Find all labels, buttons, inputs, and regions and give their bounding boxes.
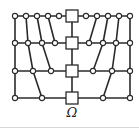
circle-node <box>127 13 132 18</box>
vertical-edge <box>37 16 42 43</box>
circle-node <box>12 40 17 45</box>
circle-node <box>109 68 114 73</box>
circle-node <box>39 95 44 100</box>
vertical-edge <box>28 43 33 71</box>
circle-node <box>105 13 110 18</box>
circle-node <box>30 68 35 73</box>
divider <box>0 127 139 128</box>
circle-node <box>100 95 105 100</box>
circle-node <box>12 95 17 100</box>
circle-node <box>90 68 95 73</box>
square-node <box>66 65 78 77</box>
vertical-edge <box>33 71 42 98</box>
circle-node <box>52 40 57 45</box>
circle-node <box>127 95 132 100</box>
circle-node <box>23 13 28 18</box>
circle-node <box>12 13 17 18</box>
circle-node <box>39 40 44 45</box>
circle-node <box>12 68 17 73</box>
vertical-edge <box>48 16 55 43</box>
vertical-edge <box>103 71 112 98</box>
circle-node <box>86 40 91 45</box>
circle-node <box>100 40 105 45</box>
circle-node <box>83 13 88 18</box>
vertical-edge <box>103 16 108 43</box>
vertical-edge <box>116 16 119 43</box>
circle-node <box>45 13 50 18</box>
circle-node <box>127 40 132 45</box>
vertical-edge <box>93 43 103 71</box>
square-node <box>66 92 78 104</box>
circle-node <box>48 68 53 73</box>
circle-node <box>34 13 39 18</box>
vertical-edge <box>112 43 116 71</box>
vertical-edge <box>26 16 28 43</box>
circle-node <box>113 40 118 45</box>
vertical-edge <box>42 43 51 71</box>
circle-node <box>56 13 61 18</box>
vertical-edge <box>89 16 97 43</box>
circle-node <box>94 13 99 18</box>
square-node <box>66 37 78 49</box>
circle-node <box>25 40 30 45</box>
circle-node <box>116 13 121 18</box>
circle-node <box>127 68 132 73</box>
omega-label: Ω <box>62 105 82 120</box>
square-node <box>66 10 78 22</box>
